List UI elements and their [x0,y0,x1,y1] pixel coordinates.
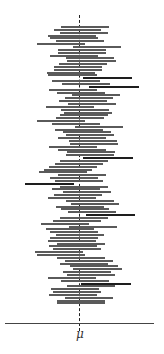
confidence-interval [46,228,94,230]
confidence-interval [63,271,111,273]
confidence-interval [66,57,114,59]
confidence-interval [65,297,113,299]
confidence-interval [67,285,115,287]
confidence-interval [56,117,104,119]
confidence-interval [54,66,102,68]
confidence-interval [83,157,133,159]
confidence-interval [61,208,109,210]
confidence-interval [66,134,114,136]
confidence-interval [69,140,117,142]
confidence-interval [86,214,135,216]
confidence-interval [49,146,97,148]
confidence-interval [68,211,116,213]
confidence-interval [55,163,103,165]
confidence-interval [52,188,100,190]
confidence-interval [50,231,98,233]
confidence-interval [49,89,97,91]
confidence-interval [58,52,106,54]
confidence-interval [35,251,83,253]
confidence-interval [37,43,85,45]
confidence-interval [67,60,116,62]
confidence-interval [89,86,139,88]
confidence-interval [50,237,98,239]
x-axis [5,323,154,324]
confidence-interval [73,268,122,270]
confidence-interval [49,294,97,296]
confidence-interval [73,46,121,48]
confidence-interval [46,106,94,108]
confidence-interval [65,260,113,262]
confidence-interval [62,83,110,85]
confidence-interval [61,280,109,282]
confidence-interval [58,174,106,176]
confidence-interval [66,154,114,156]
confidence-interval [67,151,115,153]
confidence-interval [37,254,85,256]
confidence-interval [41,223,89,225]
confidence-interval [53,220,101,222]
confidence-interval [60,217,108,219]
confidence-interval [63,131,111,133]
confidence-interval [49,166,97,168]
confidence-interval [50,177,98,179]
confidence-interval [54,69,102,71]
confidence-interval [67,274,115,276]
confidence-interval [60,160,108,162]
confidence-interval [48,277,96,279]
confidence-interval [59,100,107,102]
confidence-interval [52,123,100,125]
confidence-interval [53,248,101,250]
confidence-interval [66,200,114,202]
confidence-interval [58,49,106,51]
confidence-interval [71,203,119,205]
confidence-interval [51,288,99,290]
confidence-interval-plot: μ [0,0,164,354]
confidence-interval [83,77,132,79]
confidence-interval [58,137,106,139]
confidence-interval [63,191,111,193]
confidence-interval [72,94,120,96]
confidence-interval [68,103,116,105]
confidence-interval [52,80,100,82]
confidence-interval [50,37,98,39]
confidence-interval [57,257,105,259]
confidence-interval [48,74,97,76]
confidence-interval [60,32,108,34]
confidence-interval [48,240,96,242]
confidence-interval [59,63,107,65]
confidence-interval [61,26,109,28]
confidence-interval [70,265,118,267]
confidence-interval [57,302,105,304]
confidence-interval [56,234,104,236]
confidence-interval [54,194,102,196]
confidence-interval [25,183,74,185]
confidence-interval [70,143,118,145]
confidence-interval [37,120,85,122]
confidence-interval [61,109,109,111]
confidence-interval [75,126,123,128]
mu-label: μ [74,327,86,341]
confidence-interval [56,40,104,42]
confidence-interval [54,29,101,31]
confidence-interval [65,97,113,99]
confidence-interval [60,114,108,116]
confidence-interval [39,171,87,173]
confidence-interval [53,291,101,293]
confidence-interval [49,245,97,247]
confidence-interval [48,197,96,199]
confidence-interval [55,180,103,182]
